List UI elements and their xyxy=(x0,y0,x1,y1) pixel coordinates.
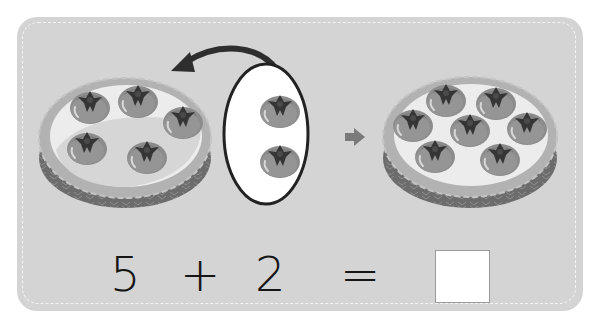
illustration xyxy=(0,0,599,330)
added-group xyxy=(224,64,308,204)
operand-1: 5 xyxy=(110,246,141,302)
operand-2: 2 xyxy=(255,246,286,302)
answer-box[interactable] xyxy=(435,250,490,303)
equals-sign: = xyxy=(340,246,380,302)
plus-sign: + xyxy=(180,246,220,302)
right-arrow-icon xyxy=(345,128,365,146)
